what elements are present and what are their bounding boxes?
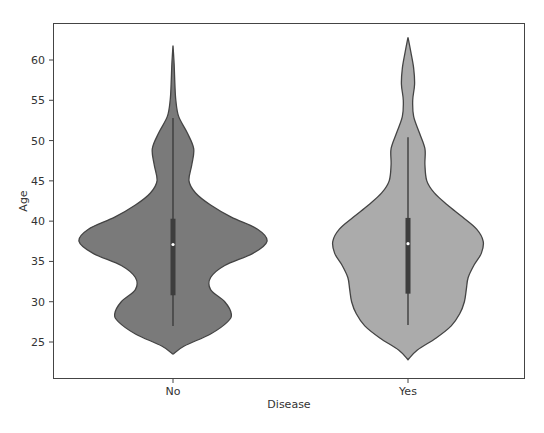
x-tick-label-yes: Yes bbox=[398, 385, 417, 398]
iqr-box bbox=[171, 219, 176, 296]
y-tick-label: 25 bbox=[31, 336, 45, 349]
median-marker bbox=[406, 242, 409, 245]
violins-layer bbox=[79, 37, 484, 359]
y-tick-label: 55 bbox=[31, 94, 45, 107]
x-axis-ticks: NoYes bbox=[166, 379, 418, 399]
y-axis-label: Age bbox=[17, 190, 30, 212]
y-tick-label: 35 bbox=[31, 255, 45, 268]
violin-no bbox=[79, 45, 267, 354]
x-axis-label: Disease bbox=[267, 398, 310, 411]
y-tick-label: 45 bbox=[31, 175, 45, 188]
violin-yes bbox=[333, 37, 484, 359]
violin-chart: 2530354045505560 NoYes Disease Age bbox=[0, 0, 544, 433]
median-marker bbox=[171, 243, 174, 246]
y-tick-label: 40 bbox=[31, 215, 45, 228]
iqr-box bbox=[406, 218, 411, 294]
y-tick-label: 30 bbox=[31, 296, 45, 309]
y-axis-ticks: 2530354045505560 bbox=[31, 54, 54, 349]
y-tick-label: 50 bbox=[31, 135, 45, 148]
x-tick-label-no: No bbox=[166, 385, 181, 398]
y-tick-label: 60 bbox=[31, 54, 45, 67]
